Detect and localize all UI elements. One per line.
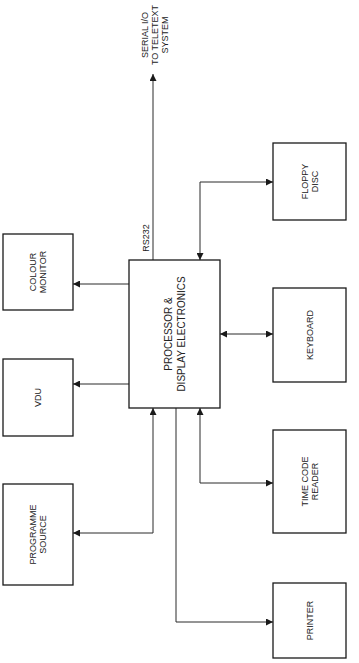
colour-monitor-line-2: MONITOR [38,250,48,293]
block-diagram: RS232 SERIAL I/O TO TELETEXT SYSTEM PROC… [0,0,359,663]
processor-line-2: DISPLAY ELECTRONICS [176,276,187,392]
printer-block: PRINTER [273,583,346,658]
time-code-reader-line-1: TIME CODE [300,456,310,506]
time-code-reader-link [200,408,273,483]
vdu-block: VDU [3,359,73,436]
programme-source-line-1: PROGRAMME [28,504,38,564]
serial-output-line-3: SYSTEM [160,16,170,53]
printer-label: PRINTER [305,600,315,640]
floppy-disc-line-2: DISC [310,170,320,192]
floppy-disc-line-1: FLOPPY [300,164,310,200]
processor-line-1: PROCESSOR & [163,297,174,371]
colour-monitor-block: COLOUR MONITOR [3,234,73,310]
vdu-label: VDU [33,388,43,407]
serial-output-line-2: TO TELETEXT [150,4,160,65]
processor-block: PROCESSOR & DISPLAY ELECTRONICS [129,260,220,408]
keyboard-block: KEYBOARD [273,288,346,382]
printer-link [176,408,273,622]
time-code-reader-block: TIME CODE READER [273,430,346,533]
keyboard-label: KEYBOARD [305,309,315,360]
time-code-reader-line-2: READER [310,462,320,500]
programme-source-link [73,408,153,533]
floppy-disc-block: FLOPPY DISC [273,143,346,220]
programme-source-line-2: SOURCE [38,515,48,554]
rs232-label: RS232 [141,224,151,252]
floppy-link [200,182,273,260]
colour-monitor-line-1: COLOUR [28,252,38,291]
serial-output-line-1: SERIAL I/O [140,12,150,58]
programme-source-block: PROGRAMME SOURCE [3,484,73,585]
serial-output-label: SERIAL I/O TO TELETEXT SYSTEM [140,4,170,65]
